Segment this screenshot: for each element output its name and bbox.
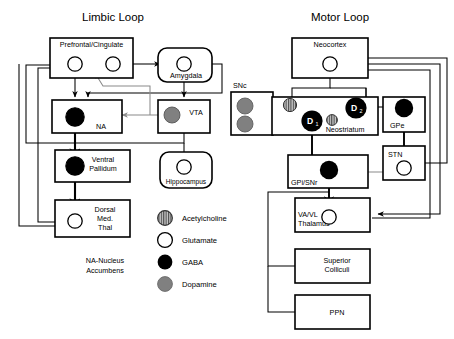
node-neostriatum-label: Neostriatum xyxy=(326,125,365,134)
node-neocortex-label: Neocortex xyxy=(314,40,347,49)
node-nucleus-accumbens[interactable]: NA xyxy=(52,100,122,133)
neuron-gaba-gpe xyxy=(395,99,413,117)
node-prefrontal-cingulate[interactable]: Prefrontal/Cingulate xyxy=(50,38,133,78)
node-gpe-label: GPe xyxy=(390,121,404,130)
node-prefrontal-cingulate-label: Prefrontal/Cingulate xyxy=(60,40,124,49)
neuron-glutamate-thalamus xyxy=(322,210,336,224)
node-dorsal-med-thal-label-3: Thal xyxy=(98,223,112,232)
node-superior-colliculi[interactable]: Superior Colliculi xyxy=(295,249,370,283)
neuron-glutamate-thal xyxy=(68,214,82,228)
node-ppn-label: PPN xyxy=(330,308,345,317)
d1-label: D xyxy=(307,116,313,126)
legend-label-gaba: GABA xyxy=(182,258,204,267)
node-snc-label: SNc xyxy=(233,81,247,90)
node-dorsal-med-thal-label-1: Dorsal xyxy=(95,205,116,214)
neuron-gaba-na xyxy=(66,108,84,126)
neuron-glutamate-prefrontal-2 xyxy=(106,57,120,71)
diagram-canvas: Limbic Loop Prefrontal/Cingulate Amygdal… xyxy=(0,0,454,339)
node-hippocampus[interactable]: Hippocampus xyxy=(160,152,212,188)
legend-label-acetylcholine: Acetylcholine xyxy=(182,214,227,223)
neuron-acetylcholine-2 xyxy=(327,115,338,126)
neuron-dopamine-snc-2 xyxy=(237,116,253,132)
neuron-acetylcholine-1 xyxy=(283,98,296,111)
node-va-vl-thalamus[interactable]: VA/VL Thalamus xyxy=(295,198,370,232)
node-hippocampus-label: Hippocampus xyxy=(166,178,207,186)
neuron-d2-receptor: D 2 xyxy=(345,97,366,118)
acetylcholine-swatch-icon xyxy=(158,211,173,226)
node-vta[interactable]: VTA xyxy=(158,100,210,133)
d1-subscript: 1 xyxy=(316,121,319,127)
node-gpi-snr[interactable]: GPi/SNr xyxy=(288,155,368,188)
node-amygdala-label: Amygdala xyxy=(170,71,202,80)
node-va-vl-label-1: VA/VL xyxy=(298,210,318,219)
node-ventral-pallidum-label-1: Ventral xyxy=(92,155,115,164)
neuron-glutamate-stn xyxy=(397,161,411,175)
legend-label-glutamate: Glutamate xyxy=(182,236,217,245)
neuron-glutamate-hippocampus xyxy=(177,160,191,174)
node-ventral-pallidum-label-2: Pallidum xyxy=(89,164,117,173)
node-dorsal-med-thal[interactable]: Dorsal Med. Thal xyxy=(55,200,130,237)
node-stn-label: STN xyxy=(388,150,402,159)
node-superior-colliculi-label-1: Superior xyxy=(323,256,351,265)
node-ppn[interactable]: PPN xyxy=(295,295,370,329)
node-amygdala[interactable]: Amygdala xyxy=(158,48,212,82)
glutamate-swatch-icon xyxy=(158,233,173,248)
node-nucleus-accumbens-label: NA xyxy=(96,122,106,131)
gaba-swatch-icon xyxy=(158,255,173,270)
neuron-dopamine-snc-1 xyxy=(237,98,253,114)
node-ventral-pallidum[interactable]: Ventral Pallidum xyxy=(55,150,130,182)
neuron-glutamate-neocortex xyxy=(323,57,337,71)
dopamine-swatch-icon xyxy=(158,277,173,292)
na-note-line-2: Accumbens xyxy=(86,266,124,275)
node-neocortex[interactable]: Neocortex xyxy=(292,38,368,78)
node-gpe[interactable]: GPe xyxy=(383,97,425,132)
node-neostriatum[interactable]: Neostriatum D 1 D 2 xyxy=(272,97,378,135)
node-dorsal-med-thal-label-2: Med. xyxy=(97,214,113,223)
neuron-dopamine-vta xyxy=(164,107,180,123)
node-vta-label: VTA xyxy=(189,108,203,117)
neuron-d1-receptor: D 1 xyxy=(301,110,322,131)
na-note-line-1: NA-Nucleus xyxy=(86,256,125,265)
neuron-glutamate-prefrontal-1 xyxy=(68,57,82,71)
neuron-gaba-ventral-pallidum xyxy=(66,157,84,175)
legend-label-dopamine: Dopamine xyxy=(182,280,217,289)
d2-label: D xyxy=(351,103,357,113)
neuron-glutamate-amygdala xyxy=(177,57,191,71)
d2-subscript: 2 xyxy=(360,108,363,114)
neural-circuit-diagram: Limbic Loop Prefrontal/Cingulate Amygdal… xyxy=(0,0,454,339)
motor-loop-title: Motor Loop xyxy=(311,11,369,23)
limbic-loop-title: Limbic Loop xyxy=(82,11,144,23)
neuron-gaba-gpi xyxy=(320,161,338,179)
node-stn[interactable]: STN xyxy=(383,146,425,180)
node-superior-colliculi-label-2: Colliculi xyxy=(325,265,350,274)
node-gpi-snr-label: GPi/SNr xyxy=(291,178,318,187)
